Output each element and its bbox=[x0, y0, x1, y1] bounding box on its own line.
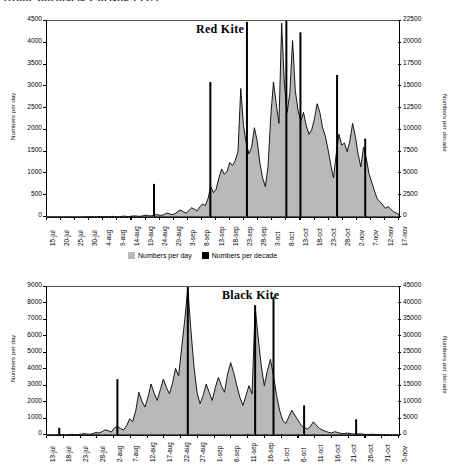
xtick-minor bbox=[119, 434, 120, 436]
xtick-label-red-kite-21: 28-oct bbox=[344, 228, 351, 246]
xtick-label-black-kite-11: 6-sep bbox=[233, 446, 240, 462]
xtick-label-red-kite-13: 18-sep bbox=[232, 226, 239, 246]
xtick-minor bbox=[198, 216, 199, 218]
xtick-minor bbox=[202, 434, 203, 436]
xtick-minor bbox=[276, 434, 277, 436]
xtick-minor bbox=[220, 434, 221, 436]
xtick-minor bbox=[291, 216, 292, 218]
xtick-minor bbox=[384, 216, 385, 218]
xtick-minor bbox=[333, 216, 334, 218]
xtick-minor bbox=[358, 434, 359, 436]
xtick-minor bbox=[359, 216, 360, 218]
chart-title-black-kite: Black Kite bbox=[222, 288, 279, 303]
xtick-minor bbox=[175, 434, 176, 436]
xtick-minor bbox=[299, 216, 300, 218]
series-bar-numbers-per-decade bbox=[187, 287, 189, 435]
xtick-label-black-kite-15: 6-oct bbox=[300, 448, 307, 462]
xtick-minor bbox=[64, 434, 65, 436]
xtick-minor bbox=[263, 216, 264, 218]
tickmark-left bbox=[43, 335, 46, 336]
series-bar-numbers-per-decade bbox=[336, 75, 338, 217]
xtick-minor bbox=[204, 216, 205, 218]
xtick-minor bbox=[205, 434, 206, 436]
xtick-minor bbox=[94, 216, 95, 218]
xtick-minor bbox=[176, 216, 177, 218]
xtick-label-red-kite-4: 4-aug bbox=[105, 230, 112, 246]
xtick-label-black-kite-10: 1-sep bbox=[216, 446, 223, 462]
tickmark-left bbox=[43, 368, 46, 369]
xtick-minor bbox=[346, 434, 347, 436]
xtick-minor bbox=[190, 434, 191, 436]
tickmark-right bbox=[398, 172, 401, 173]
ytick-left-black-kite-3000: 3000 bbox=[4, 381, 42, 388]
xtick-minor bbox=[89, 434, 90, 436]
xtick-minor bbox=[195, 216, 196, 218]
xtick-minor bbox=[116, 216, 117, 218]
xtick-minor bbox=[91, 216, 92, 218]
xtick-minor bbox=[269, 434, 270, 436]
xtick-minor bbox=[350, 216, 351, 218]
xtick-minor bbox=[243, 216, 244, 218]
series-bar-numbers-per-decade bbox=[116, 379, 118, 435]
series-area-numbers-per-day bbox=[47, 288, 399, 435]
ytick-right-black-kite-0: 0 bbox=[403, 430, 407, 437]
xtick-minor bbox=[280, 216, 281, 218]
plot-area-black-kite bbox=[46, 286, 400, 436]
xtick-minor bbox=[57, 216, 58, 218]
xtick-minor bbox=[308, 216, 309, 218]
xtick-minor bbox=[86, 434, 87, 436]
xtick-minor bbox=[273, 434, 274, 436]
xtick-minor bbox=[153, 434, 154, 436]
xtick-minor bbox=[85, 216, 86, 218]
series-canvas-black-kite bbox=[47, 287, 399, 435]
xtick-minor bbox=[297, 434, 298, 436]
tickmark-right bbox=[398, 401, 401, 402]
xtick-minor bbox=[114, 216, 115, 218]
tickmark-right bbox=[398, 335, 401, 336]
xtick-minor bbox=[230, 434, 231, 436]
series-bar-numbers-per-decade bbox=[254, 305, 256, 435]
xtick-minor bbox=[343, 434, 344, 436]
xtick-minor bbox=[398, 434, 399, 436]
xtick-label-red-kite-10: 3-sep bbox=[189, 230, 196, 246]
xtick-minor bbox=[212, 216, 213, 218]
xtick-minor bbox=[223, 216, 224, 218]
xtick-minor bbox=[116, 434, 117, 436]
ytick-right-black-kite-5000: 5000 bbox=[403, 414, 418, 421]
xtick-minor bbox=[294, 216, 295, 218]
xtick-minor bbox=[61, 434, 62, 436]
chart-title-red-kite: Red Kite bbox=[196, 22, 244, 37]
xtick-major bbox=[197, 434, 198, 438]
xtick-minor bbox=[254, 216, 255, 218]
ytick-right-black-kite-45000: 45000 bbox=[403, 282, 421, 289]
xtick-minor bbox=[334, 434, 335, 436]
legend-label-decade: Numbers per decade bbox=[212, 252, 277, 259]
xtick-minor bbox=[207, 216, 208, 218]
xtick-minor bbox=[147, 216, 148, 218]
xtick-minor bbox=[187, 434, 188, 436]
xtick-minor bbox=[209, 216, 210, 218]
xtick-minor bbox=[170, 216, 171, 218]
xtick-minor bbox=[199, 434, 200, 436]
xtick-minor bbox=[380, 434, 381, 436]
xtick-minor bbox=[132, 434, 133, 436]
chart-legend: Numbers per day Numbers per decade bbox=[128, 252, 277, 259]
xtick-label-red-kite-24: 12-nov bbox=[387, 226, 394, 246]
xtick-minor bbox=[83, 216, 84, 218]
xtick-minor bbox=[355, 434, 356, 436]
xtick-label-black-kite-1: 18-jul bbox=[65, 446, 72, 462]
xtick-label-red-kite-20: 23-oct bbox=[330, 228, 337, 246]
tickmark-right bbox=[398, 286, 401, 287]
tickmark-left bbox=[43, 302, 46, 303]
xtick-minor bbox=[356, 216, 357, 218]
xtick-minor bbox=[285, 216, 286, 218]
xtick-label-red-kite-8: 24-aug bbox=[161, 226, 168, 246]
xtick-minor bbox=[288, 434, 289, 436]
tickmark-right bbox=[398, 42, 401, 43]
xtick-minor bbox=[97, 216, 98, 218]
ytick-right-red-kite-2500: 2500 bbox=[403, 191, 418, 198]
xtick-minor bbox=[398, 216, 399, 218]
xtick-minor bbox=[196, 434, 197, 436]
xtick-minor bbox=[184, 434, 185, 436]
xtick-minor bbox=[102, 216, 103, 218]
